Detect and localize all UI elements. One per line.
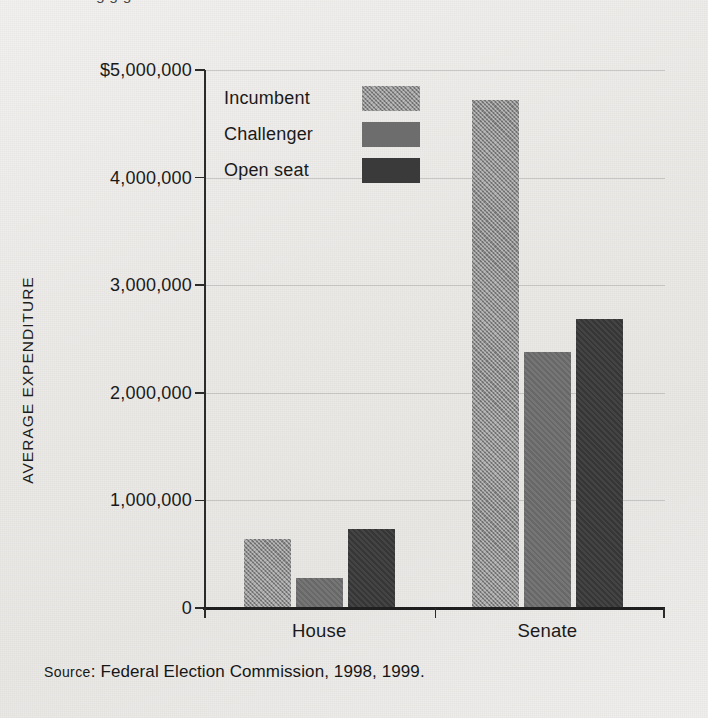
x-axis-tick-mark [663, 608, 665, 618]
y-axis-tick-label: 4,000,000 [42, 167, 192, 188]
legend-label: Open seat [224, 160, 309, 181]
legend-label: Challenger [224, 124, 313, 145]
legend-item-openseat: Open seat [224, 152, 420, 188]
gridline [204, 70, 665, 71]
bar-house-challenger [296, 578, 343, 608]
y-axis-tick-label: 3,000,000 [42, 275, 192, 296]
bar-senate-open-seat [576, 319, 623, 608]
bar-senate-challenger [524, 352, 571, 608]
gridline [204, 285, 665, 286]
x-axis-group-label-house: House [292, 620, 346, 642]
y-axis-tick-labels: $5,000,0004,000,0003,000,0002,000,0001,0… [42, 0, 192, 718]
legend-item-incumbent: Incumbent [224, 80, 420, 116]
bar-chart-figure: g g g AVERAGE EXPENDITURE $5,000,0004,00… [0, 0, 708, 718]
legend-label: Incumbent [224, 88, 310, 109]
y-axis-tick-label: $5,000,000 [42, 60, 192, 81]
legend-item-challenger: Challenger [224, 116, 420, 152]
x-axis-tick-mark [435, 608, 437, 618]
y-axis-line [204, 70, 206, 608]
y-axis-title: AVERAGE EXPENDITURE [19, 215, 37, 545]
legend-swatch-challenger [362, 122, 420, 147]
bar-house-incumbent [244, 539, 291, 608]
bar-house-open-seat [348, 529, 395, 608]
legend-swatch-incumbent [362, 86, 420, 111]
y-axis-tick-label: 1,000,000 [42, 490, 192, 511]
y-axis-tick-label: 0 [42, 598, 192, 619]
bar-senate-incumbent [472, 100, 519, 608]
source-note: Source: Federal Election Commission, 199… [44, 662, 425, 682]
source-text: : Federal Election Commission, 1998, 199… [91, 662, 425, 681]
y-axis-tick-label: 2,000,000 [42, 382, 192, 403]
x-axis-group-label-senate: Senate [518, 620, 578, 642]
source-label: Source [44, 664, 91, 680]
legend-swatch-openseat [362, 158, 420, 183]
x-axis-tick-mark [204, 608, 206, 618]
chart-legend: IncumbentChallengerOpen seat [224, 80, 420, 188]
